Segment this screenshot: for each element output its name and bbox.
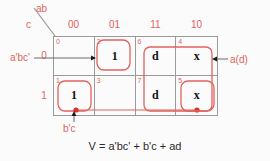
cell-value-6: d bbox=[152, 49, 159, 64]
kmap-overlay bbox=[0, 0, 270, 161]
boolean-equation: V = a'bc' + b'c + ad bbox=[0, 140, 270, 152]
annotation-ad: a(d) bbox=[230, 54, 248, 65]
arrow-head-ad bbox=[212, 57, 217, 62]
cell-value-5: x bbox=[194, 88, 200, 103]
cell-value-7: d bbox=[152, 88, 159, 103]
arrow-head-abc bbox=[91, 56, 96, 61]
cell-value-2: 1 bbox=[112, 49, 118, 64]
wrap-dot-right bbox=[194, 107, 199, 112]
cell-value-1: 1 bbox=[71, 88, 77, 103]
annotation-abc: a'bc' bbox=[10, 52, 30, 63]
annotation-bc: b'c bbox=[63, 123, 75, 134]
cell-value-4: x bbox=[194, 49, 200, 64]
kmap-diagram: ab c 00 01 11 10 0 1 0 2 1 6 d 4 x 1 1 3 bbox=[0, 0, 270, 161]
axis-diagonal-line bbox=[34, 8, 55, 36]
